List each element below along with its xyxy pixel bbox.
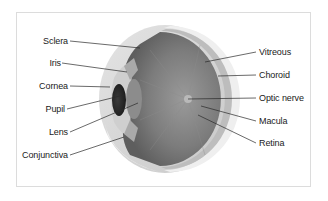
label-macula: Macula bbox=[259, 116, 287, 126]
lens-shape bbox=[126, 79, 142, 119]
label-optic-nerve: Optic nerve bbox=[259, 93, 304, 103]
label-lens: Lens bbox=[49, 127, 68, 137]
eyeball bbox=[99, 25, 240, 173]
label-sclera: Sclera bbox=[43, 36, 68, 46]
label-vitreous: Vitreous bbox=[259, 47, 291, 57]
label-iris: Iris bbox=[49, 58, 61, 68]
label-retina: Retina bbox=[259, 138, 284, 148]
label-pupil: Pupil bbox=[45, 104, 65, 114]
label-cornea: Cornea bbox=[39, 81, 68, 91]
label-choroid: Choroid bbox=[259, 70, 290, 80]
label-conjunctiva: Conjunctiva bbox=[22, 150, 68, 160]
